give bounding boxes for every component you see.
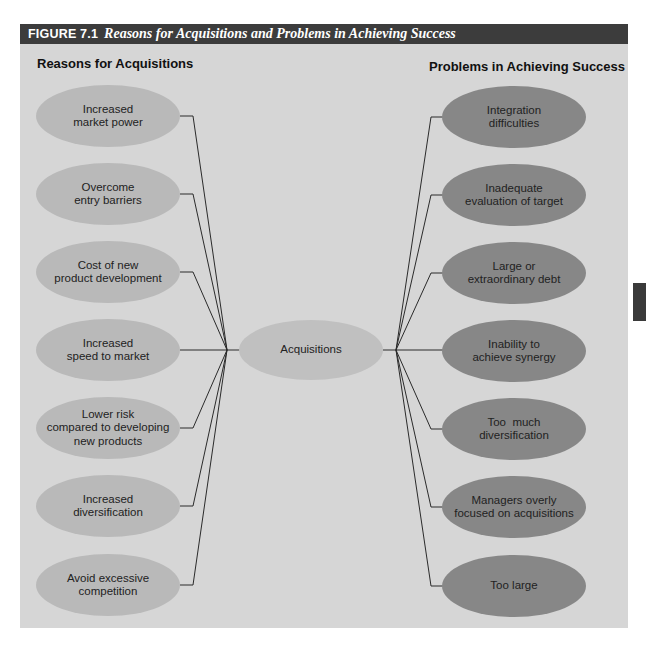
node-line: Avoid excessive (67, 572, 149, 586)
reason-node-market-power: Increasedmarket power (36, 86, 180, 146)
node-line: Increased (73, 103, 143, 117)
node-line: evaluation of target (465, 195, 563, 209)
center-node-acquisitions: Acquisitions (239, 320, 383, 380)
reason-node-speed-to-market: Increasedspeed to market (36, 320, 180, 380)
node-line: extraordinary debt (468, 273, 561, 287)
node-line: Overcome (74, 181, 142, 195)
node-line: achieve synergy (472, 351, 555, 365)
reason-node-entry-barriers: Overcomeentry barriers (36, 164, 180, 224)
node-line: diversification (73, 506, 143, 520)
reason-node-lower-risk: Lower riskcompared to developingnew prod… (36, 398, 180, 458)
problem-node-integration: Integrationdifficulties (442, 87, 586, 147)
node-line: compared to developing (47, 421, 170, 435)
reason-node-product-development: Cost of newproduct development (36, 242, 180, 302)
left-connectors (180, 116, 240, 585)
node-line: Cost of new (54, 259, 161, 273)
node-line: Inadequate (465, 182, 563, 196)
node-line: diversification (479, 429, 549, 443)
node-line: entry barriers (74, 194, 142, 208)
node-line: Inability to (472, 338, 555, 352)
problem-node-evaluation: Inadequateevaluation of target (442, 165, 586, 225)
node-line: Integration (487, 104, 541, 118)
node-line: Managers overly (454, 494, 574, 508)
right-connectors (383, 117, 443, 586)
page-edge-tab (633, 283, 646, 321)
problem-node-too-much-diversification: Too muchdiversification (442, 399, 586, 459)
problem-node-too-large: Too large (442, 556, 586, 616)
problem-node-synergy: Inability toachieve synergy (442, 321, 586, 381)
node-line: Increased (73, 493, 143, 507)
node-line: Large or (468, 260, 561, 274)
node-line: Too much (479, 416, 549, 430)
node-line: new products (47, 435, 170, 449)
reason-node-avoid-competition: Avoid excessivecompetition (36, 555, 180, 615)
node-line: Too large (490, 579, 537, 593)
reason-node-diversification: Increaseddiversification (36, 476, 180, 536)
node-line: Increased (67, 337, 149, 351)
node-line: product development (54, 272, 161, 286)
problem-node-debt: Large orextraordinary debt (442, 243, 586, 303)
node-line: market power (73, 116, 143, 130)
node-line: speed to market (67, 350, 149, 364)
node-line: Lower risk (47, 408, 170, 422)
problem-node-managers-focused: Managers overlyfocused on acquisitions (442, 477, 586, 537)
node-line: competition (67, 585, 149, 599)
node-line: focused on acquisitions (454, 507, 574, 521)
center-label: Acquisitions (280, 343, 341, 357)
node-line: difficulties (487, 117, 541, 131)
